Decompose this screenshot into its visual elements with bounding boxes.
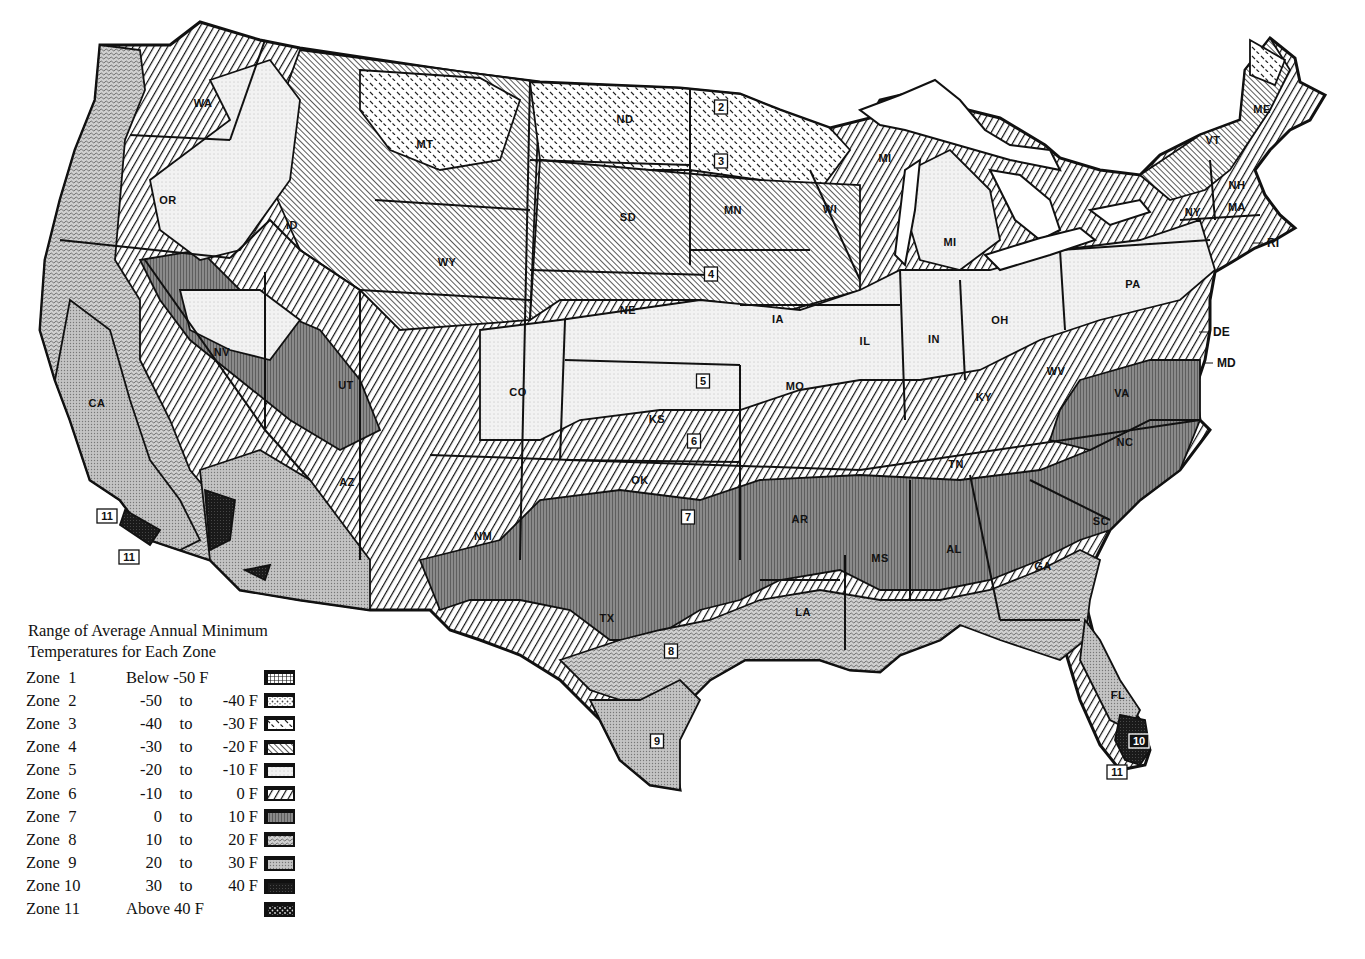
zone-marker-4: 4 [705, 267, 718, 281]
zone-marker-2: 2 [715, 100, 728, 114]
zone-marker-11: 11 [119, 550, 139, 564]
zone-marker-9: 9 [651, 734, 664, 748]
state-label-me: ME [1253, 103, 1271, 115]
state-label-tx: TX [599, 612, 614, 624]
legend-zone-label: Zone 8 [18, 830, 118, 850]
svg-text:11: 11 [1111, 766, 1123, 778]
legend-zone-label: Zone 5 [18, 760, 118, 780]
state-label-ga: GA [1034, 560, 1052, 572]
state-label-sc: SC [1093, 515, 1109, 527]
legend-row-zone-1: Zone 1Below -50 F [18, 666, 318, 689]
state-label-ok: OK [631, 474, 649, 486]
state-label-il: IL [860, 335, 871, 347]
legend-swatch-zone-8 [264, 832, 295, 847]
svg-text:4: 4 [708, 268, 715, 280]
state-label-ar: AR [792, 513, 809, 525]
state-label-mn: MN [724, 204, 742, 216]
zone-legend: Range of Average Annual Minimum Temperat… [18, 620, 318, 921]
legend-zone-label: Zone 4 [18, 737, 118, 757]
svg-text:3: 3 [718, 155, 724, 167]
legend-zone-label: Zone 3 [18, 714, 118, 734]
state-label-ri: RI [1267, 236, 1279, 250]
legend-swatch-zone-1 [264, 670, 295, 685]
zone-marker-8: 8 [665, 644, 678, 658]
zone-marker-3: 3 [715, 154, 728, 168]
legend-row-zone-10: Zone 1030to40 F [18, 875, 318, 898]
state-label-ut: UT [338, 379, 354, 391]
state-label-ks: KS [649, 413, 665, 425]
legend-row-zone-3: Zone 3-40to-30 F [18, 712, 318, 735]
svg-text:5: 5 [700, 375, 706, 387]
legend-swatch-zone-9 [264, 856, 295, 871]
legend-zone-label: Zone 2 [18, 691, 118, 711]
legend-swatch-zone-3 [264, 716, 295, 731]
legend-row-zone-11: Zone 11Above 40 F [18, 898, 318, 921]
legend-title-line-2: Temperatures for Each Zone [28, 641, 318, 662]
state-label-md: MD [1217, 356, 1236, 370]
legend-zone-range: -20to-10 F [118, 760, 258, 780]
legend-zone-range: Above 40 F [118, 899, 258, 919]
legend-zone-range: -30to-20 F [118, 737, 258, 757]
legend-zone-range: 20to30 F [118, 853, 258, 873]
state-label-wi: WI [823, 203, 837, 215]
legend-row-zone-8: Zone 810to20 F [18, 828, 318, 851]
svg-text:6: 6 [691, 435, 697, 447]
svg-text:11: 11 [123, 551, 135, 563]
legend-zone-range: Below -50 F [118, 668, 258, 688]
svg-text:11: 11 [101, 510, 113, 522]
zone-marker-7: 7 [682, 510, 695, 524]
state-label-ny: NY [1185, 206, 1201, 218]
legend-zone-label: Zone 6 [18, 784, 118, 804]
state-label-co: CO [509, 386, 527, 398]
state-label-wa: WA [194, 97, 213, 109]
legend-zone-label: Zone 11 [18, 899, 118, 919]
legend-zone-range: 10to20 F [118, 830, 258, 850]
svg-text:7: 7 [685, 511, 691, 523]
state-label-al: AL [946, 543, 962, 555]
legend-swatch-zone-2 [264, 693, 295, 708]
state-label-nc: NC [1117, 436, 1134, 448]
state-label-nm: NM [474, 530, 492, 542]
legend-zone-range: 30to40 F [118, 876, 258, 896]
legend-swatch-zone-4 [264, 740, 295, 755]
state-label-nv: NV [214, 346, 230, 358]
legend-zone-range: -50to-40 F [118, 691, 258, 711]
state-label-pa: PA [1125, 278, 1140, 290]
legend-row-zone-2: Zone 2-50to-40 F [18, 689, 318, 712]
state-label-ky: KY [976, 391, 992, 403]
svg-text:8: 8 [668, 645, 674, 657]
state-label-ca: CA [89, 397, 106, 409]
legend-zone-range: -10to0 F [118, 784, 258, 804]
legend-row-zone-6: Zone 6-10to0 F [18, 782, 318, 805]
state-label-az: AZ [339, 476, 355, 488]
state-label-fl: FL [1111, 689, 1125, 701]
legend-title-line-1: Range of Average Annual Minimum [28, 620, 318, 641]
legend-row-zone-9: Zone 920to30 F [18, 852, 318, 875]
state-label-ms: MS [871, 552, 889, 564]
state-label-la: LA [795, 606, 811, 618]
state-label-mi: MI [878, 152, 891, 164]
state-label-ia: IA [772, 313, 784, 325]
state-label-tn: TN [948, 458, 964, 470]
legend-zone-label: Zone 1 [18, 668, 118, 688]
zone-marker-5: 5 [697, 374, 710, 388]
svg-text:2: 2 [718, 101, 724, 113]
state-label-ma: MA [1228, 201, 1246, 213]
state-label-mt: MT [417, 138, 434, 150]
zone-marker-10: 10 [1129, 734, 1149, 748]
state-label-sd: SD [620, 211, 636, 223]
state-label-wv: WV [1047, 365, 1066, 377]
state-label-vt: VT [1205, 134, 1220, 146]
state-label-de: DE [1213, 325, 1230, 339]
legend-row-zone-5: Zone 5-20to-10 F [18, 759, 318, 782]
legend-row-zone-7: Zone 70to10 F [18, 805, 318, 828]
state-label-wy: WY [438, 256, 457, 268]
legend-zone-range: -40to-30 F [118, 714, 258, 734]
state-label-or: OR [159, 194, 177, 206]
state-label-nh: NH [1229, 179, 1246, 191]
zone-marker-11: 11 [1107, 765, 1127, 779]
state-label-va: VA [1114, 387, 1129, 399]
svg-text:9: 9 [654, 735, 660, 747]
svg-text:10: 10 [1133, 735, 1145, 747]
state-label-mo: MO [786, 380, 805, 392]
